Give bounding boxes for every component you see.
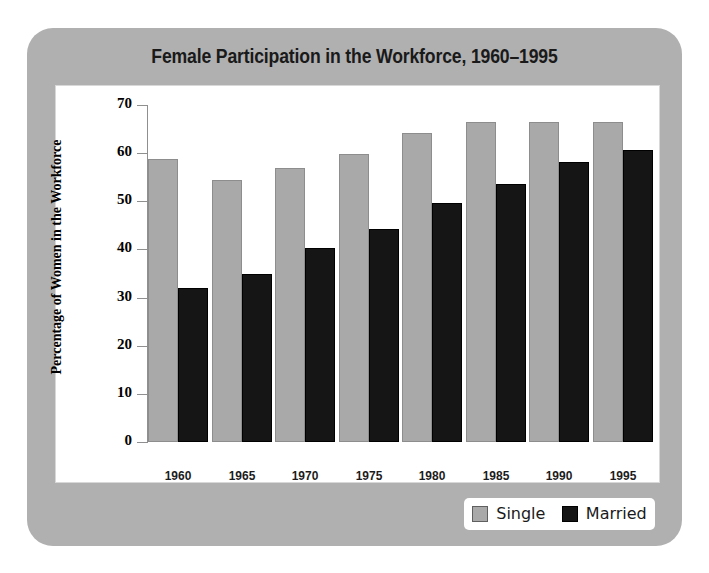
bar-1985-married: [496, 184, 526, 442]
bar-1975-single: [339, 154, 369, 442]
bar-1995-married: [623, 150, 653, 442]
x-axis-tick-label-1980: 1980: [395, 468, 469, 483]
bar-1960-married: [178, 288, 208, 442]
bar-1980-married: [432, 203, 462, 442]
x-axis-tick-label-1960: 1960: [141, 468, 215, 483]
bar-1990-married: [559, 162, 589, 442]
x-axis-tick-label-1970: 1970: [268, 468, 342, 483]
legend-entry-married: Married: [562, 506, 647, 522]
legend-label: Married: [586, 506, 647, 522]
bar-1960-single: [148, 159, 178, 442]
bar-1985-single: [466, 122, 496, 442]
legend-label: Single: [496, 506, 545, 522]
gray-square-swatch: [472, 506, 488, 522]
bar-1995-single: [593, 122, 623, 442]
bar-1990-single: [529, 122, 559, 442]
legend-entry-single: Single: [472, 506, 545, 522]
chart-legend: SingleMarried: [464, 498, 655, 530]
bar-1975-married: [369, 229, 399, 442]
bars-layer: [0, 0, 709, 573]
bar-1965-married: [242, 274, 272, 442]
x-axis-tick-label-1995: 1995: [586, 468, 660, 483]
bar-1980-single: [402, 133, 432, 442]
bar-1970-single: [275, 168, 305, 442]
bar-1970-married: [305, 248, 335, 442]
bar-1965-single: [212, 180, 242, 442]
black-square-swatch: [562, 506, 578, 522]
x-axis-tick-label-1990: 1990: [522, 468, 596, 483]
